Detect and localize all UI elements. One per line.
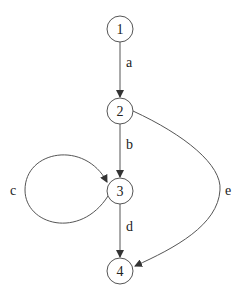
edge-label-d: d [126,219,133,234]
node-2: 2 [107,98,133,124]
node-3: 3 [107,178,133,204]
node-1: 1 [107,16,133,42]
edge-label-e: e [225,183,231,198]
edge-label-c: c [10,183,16,198]
node-label-3: 3 [117,184,124,199]
edge-label-a: a [126,55,133,70]
control-flow-graph: a b c d e 1 2 3 4 [0,0,246,300]
edge-c-self-loop [25,155,108,223]
edge-e [133,111,220,266]
node-label-1: 1 [117,22,124,37]
node-label-2: 2 [117,104,124,119]
node-label-4: 4 [117,264,124,279]
node-4: 4 [107,258,133,284]
edge-label-b: b [126,137,133,152]
